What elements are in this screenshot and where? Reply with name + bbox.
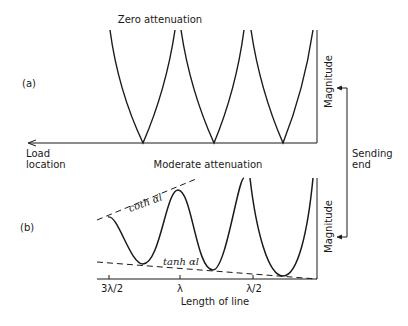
panel-b-y-label: Magnitude	[323, 200, 334, 253]
transmission-line-diagram: Zero attenuation (a) Load location Magni…	[0, 0, 408, 326]
panel-b-x-label: Length of line	[181, 296, 250, 307]
arrow-left-icon	[337, 86, 342, 90]
panel-a: Zero attenuation (a) Load location Magni…	[22, 14, 334, 170]
tanh-label: tanh αl	[163, 256, 199, 267]
sending-end-bracket: Sending end	[337, 86, 393, 239]
sending-label: Sending	[352, 148, 393, 159]
arrow-left-icon	[337, 235, 342, 239]
location-label: location	[26, 159, 66, 170]
load-label: Load	[26, 148, 50, 159]
panel-a-y-label: Magnitude	[323, 55, 334, 108]
panel-b: Moderate attenuation (b) 3λ/2 λ λ/2 Leng…	[20, 159, 334, 307]
panel-b-tag: (b)	[20, 222, 34, 233]
tick-3-lambda-half: 3λ/2	[101, 283, 123, 294]
panel-b-curve-2	[250, 178, 313, 276]
tick-lambda: λ	[177, 283, 183, 294]
panel-a-curve-1	[110, 30, 175, 143]
panel-a-title: Zero attenuation	[118, 14, 202, 25]
panel-b-title: Moderate attenuation	[154, 159, 263, 170]
panel-a-curve-2	[181, 30, 244, 143]
tick-lambda-half: λ/2	[246, 283, 262, 294]
coth-label: coth αl	[127, 191, 164, 213]
panel-a-tag: (a)	[22, 78, 36, 89]
end-label: end	[352, 159, 371, 170]
panel-a-curve-3	[251, 30, 313, 143]
